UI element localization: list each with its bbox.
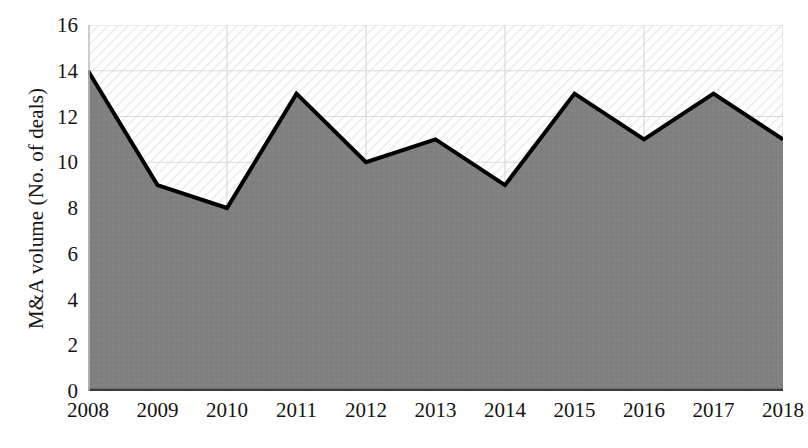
y-axis-tick-label: 16 [28, 15, 78, 36]
x-axis-tick-label: 2013 [396, 398, 476, 423]
x-axis-tick-label: 2014 [465, 398, 545, 423]
x-axis-tick-labels: 2008200920102011201220132014201520162017… [88, 398, 783, 430]
y-axis-tick-label: 12 [28, 106, 78, 127]
x-axis-tick-label: 2009 [118, 398, 198, 423]
y-axis-tick-label: 14 [28, 60, 78, 81]
y-axis-tick-label: 4 [28, 289, 78, 310]
y-axis-tick-labels: 1614121086420 [28, 0, 78, 448]
x-axis-tick-label: 2017 [674, 398, 754, 423]
y-axis-tick-label: 2 [28, 335, 78, 356]
y-axis-tick-label: 6 [28, 243, 78, 264]
x-axis-tick-label: 2008 [48, 398, 128, 423]
y-axis-tick-label: 8 [28, 198, 78, 219]
x-axis-tick-label: 2012 [326, 398, 406, 423]
x-axis-tick-label: 2016 [604, 398, 684, 423]
plot-svg [88, 25, 783, 391]
x-axis-tick-label: 2018 [743, 398, 808, 423]
y-axis-tick-label: 10 [28, 152, 78, 173]
x-axis-tick-label: 2015 [535, 398, 615, 423]
plot-area [88, 25, 783, 391]
x-axis-tick-label: 2010 [187, 398, 267, 423]
x-axis-tick-label: 2011 [257, 398, 337, 423]
